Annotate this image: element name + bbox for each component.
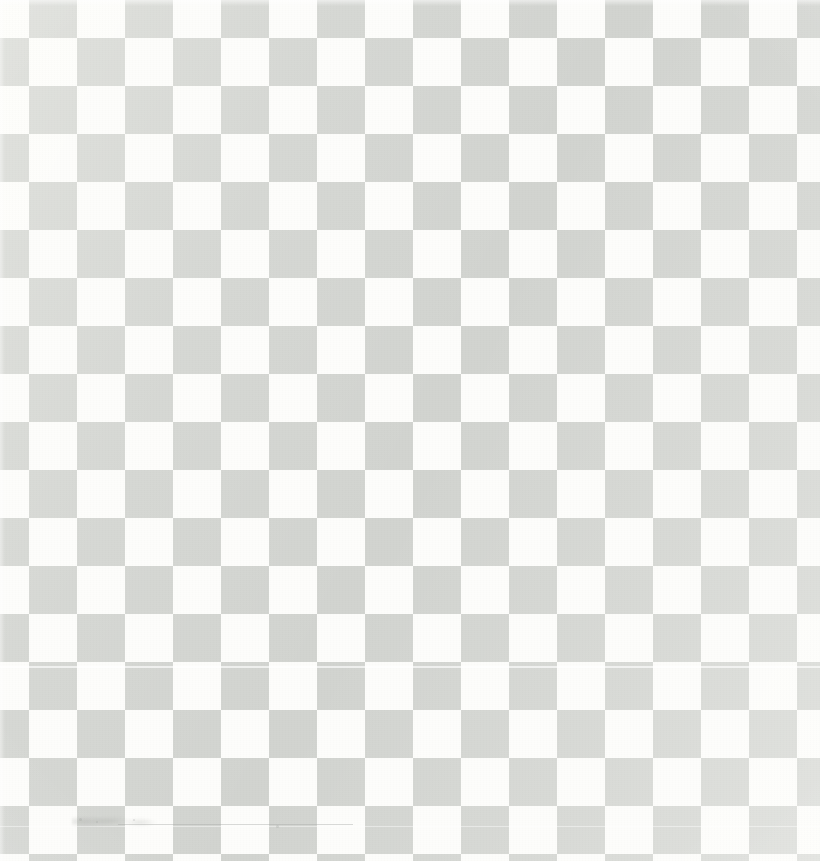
checkerboard-pattern bbox=[0, 0, 820, 861]
scanned-page-canvas bbox=[0, 0, 820, 861]
